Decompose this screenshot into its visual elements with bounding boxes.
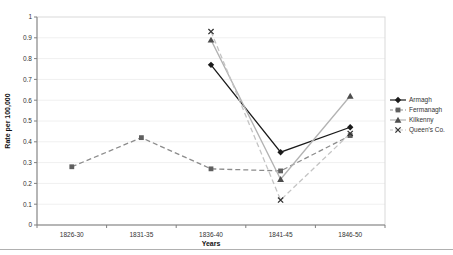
series-line-fermanagh — [72, 136, 350, 171]
legend-label: Kilkenny — [409, 116, 434, 124]
marker-queen-s-co- — [208, 29, 213, 34]
series-line-kilkenny — [211, 40, 350, 179]
series-line-queen-s-co- — [211, 32, 350, 200]
x-tick-label: 1836-40 — [199, 231, 223, 238]
marker-armagh — [347, 124, 353, 130]
marker-fermanagh — [69, 164, 74, 169]
marker-fermanagh — [139, 135, 144, 140]
y-tick-label: 1 — [28, 13, 32, 20]
marker-fermanagh — [209, 166, 214, 171]
y-tick-label: 0.3 — [23, 159, 32, 166]
legend-marker-square — [396, 108, 401, 113]
legend-label: Armagh — [409, 96, 432, 104]
marker-queen-s-co- — [278, 197, 283, 202]
marker-kilkenny — [347, 93, 354, 99]
y-tick-label: 0.1 — [23, 201, 32, 208]
y-tick-label: 0.2 — [23, 180, 32, 187]
plot-area: 00.10.20.30.40.50.60.70.80.911826-301831… — [0, 13, 453, 249]
y-tick-label: 0.4 — [23, 138, 32, 145]
y-tick-label: 0.8 — [23, 55, 32, 62]
legend-marker-diamond — [395, 97, 401, 103]
line-chart: 00.10.20.30.40.50.60.70.80.911826-301831… — [0, 0, 453, 255]
chart-figure: 00.10.20.30.40.50.60.70.80.911826-301831… — [0, 0, 453, 255]
y-tick-label: 0.7 — [23, 76, 32, 83]
legend-label: Fermanagh — [409, 106, 443, 114]
x-tick-label: 1846-50 — [338, 231, 362, 238]
y-tick-label: 0.5 — [23, 117, 32, 124]
series-line-armagh — [211, 65, 350, 152]
legend-label: Queen's Co. — [409, 126, 445, 134]
y-tick-label: 0.9 — [23, 34, 32, 41]
x-axis-title: Years — [202, 240, 221, 247]
y-axis-title: Rate per 100,000 — [4, 93, 12, 148]
marker-fermanagh — [278, 169, 283, 174]
y-tick-label: 0 — [28, 221, 32, 228]
x-tick-label: 1841-45 — [269, 231, 293, 238]
x-tick-label: 1826-30 — [60, 231, 84, 238]
x-tick-label: 1831-35 — [129, 231, 153, 238]
y-tick-label: 0.6 — [23, 97, 32, 104]
